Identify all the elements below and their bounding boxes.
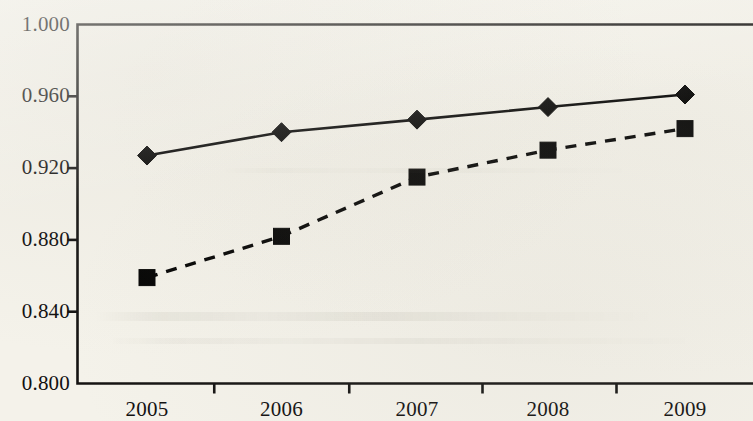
x-axis-tick-labels: 20052006200720082009 [0, 0, 753, 421]
x-axis-tick-label: 2009 [640, 399, 730, 420]
x-axis-tick-label: 2008 [503, 399, 593, 420]
x-axis-tick-label: 2007 [372, 399, 462, 420]
line-chart: 1.0000.9600.9200.8800.8400.800 200520062… [0, 0, 753, 421]
x-axis-tick-label: 2006 [237, 399, 327, 420]
x-axis-tick-label: 2005 [102, 399, 192, 420]
